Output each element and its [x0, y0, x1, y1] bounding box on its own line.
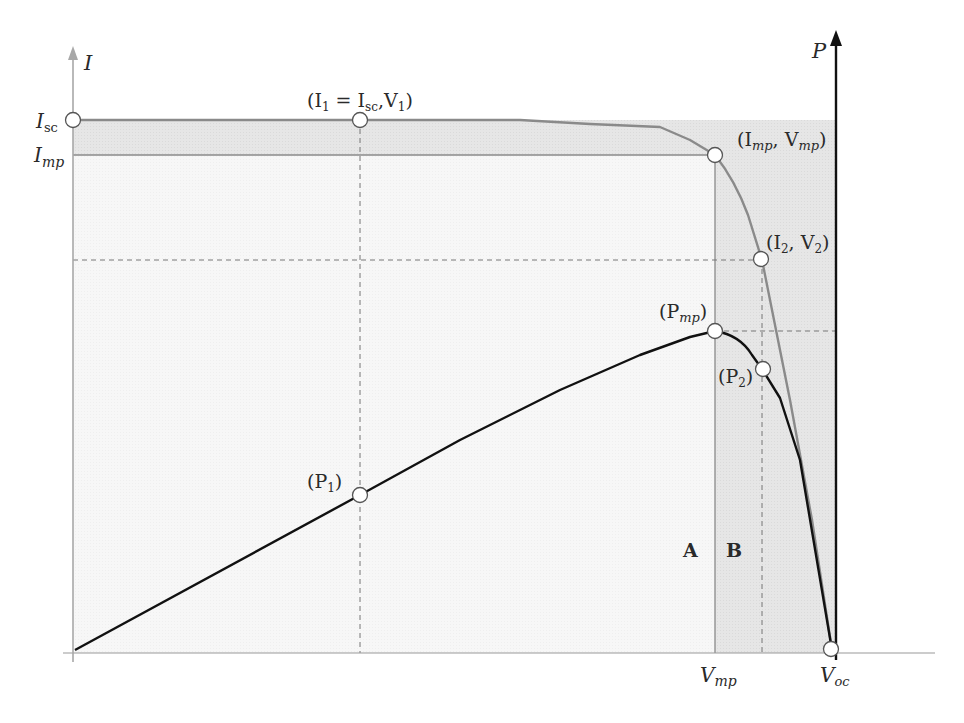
point-1-label: (I1 = Isc,V1) — [307, 89, 413, 114]
p2-label: (P2) — [718, 365, 753, 390]
p1-marker — [353, 488, 368, 503]
region-b-shade — [715, 155, 836, 653]
i-axis-arrow-icon — [68, 46, 78, 60]
isc-marker — [66, 113, 81, 128]
i-axis-label: I — [83, 51, 93, 75]
point-2-marker — [754, 252, 769, 267]
pmp-marker — [708, 324, 723, 339]
p2-marker — [756, 362, 771, 377]
imp-label: Imp — [33, 143, 64, 170]
p1-label: (P1) — [307, 470, 342, 495]
vmp-label: Vmp — [700, 663, 737, 689]
voc-label: Voc — [820, 663, 850, 689]
point-1-marker — [353, 113, 368, 128]
region-a-shade — [73, 155, 715, 653]
voc-marker — [824, 642, 839, 657]
region-b-label: B — [726, 539, 742, 561]
p-axis-arrow-icon — [830, 30, 842, 46]
region-a-label: A — [682, 539, 698, 561]
point-mp-marker — [708, 148, 723, 163]
isc-label: Isc — [35, 109, 58, 135]
isc-imp-band — [73, 120, 836, 155]
iv-pv-diagram: I P Isc Imp Vmp Voc (I1 = Isc,V1) (Imp, … — [0, 0, 964, 723]
p-axis-label: P — [811, 39, 827, 63]
